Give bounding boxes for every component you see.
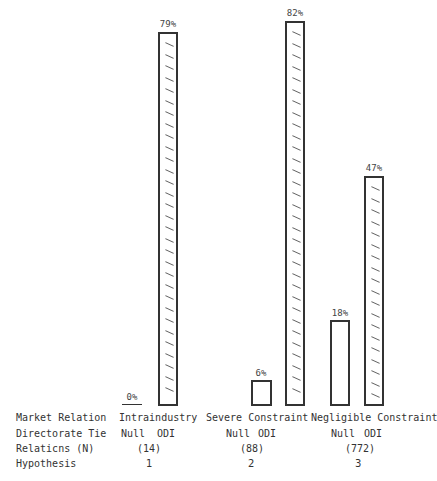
market-relation-intraindustry: Intraindustry (119, 412, 197, 423)
row-label-hypothesis: Hypothesis (16, 458, 76, 469)
bar-null-intraindustry (122, 404, 142, 405)
hatch-mark (292, 169, 301, 174)
hatch-mark (165, 169, 174, 174)
value-label-odi-intraindustry: 79% (148, 19, 188, 29)
hatch-mark (292, 146, 301, 151)
hatch-mark (371, 267, 380, 272)
hatch-mark (165, 42, 174, 47)
hatch-mark (292, 77, 301, 82)
hatch-mark (165, 146, 174, 151)
hatch-mark (292, 250, 301, 255)
bar-odi-intraindustry (158, 32, 178, 406)
hatch-mark (292, 181, 301, 186)
hypothesis-2: 2 (248, 458, 254, 469)
hatch-mark (292, 388, 301, 393)
hatch-mark (165, 249, 174, 254)
relations-n-1: (14) (137, 443, 161, 454)
hatch-mark (292, 215, 301, 220)
directorate-odi-2: ODI (258, 428, 276, 439)
hatch-mark (292, 330, 301, 335)
hatch-mark (292, 135, 301, 140)
hatch-mark (371, 301, 380, 306)
hatch-mark (371, 359, 380, 364)
relations-n-3: (772) (345, 443, 375, 454)
hatch-mark (371, 347, 380, 352)
value-label-null-severe-constraint: 6% (241, 368, 281, 378)
hatch-mark (165, 364, 174, 369)
hatch-mark (292, 204, 301, 209)
hatch-mark (292, 100, 301, 105)
hatch-mark (165, 88, 174, 93)
hatch-mark (292, 112, 301, 117)
bar-null-severe-constraint (251, 380, 272, 406)
hatch-mark (292, 227, 301, 232)
hatch-mark (371, 244, 380, 249)
hatch-mark (371, 186, 380, 191)
hatch-mark (165, 295, 174, 300)
bar-null-negligible-constraint (330, 320, 350, 406)
hatch-mark (165, 134, 174, 139)
hatch-mark (371, 313, 380, 318)
hatch-mark (371, 278, 380, 283)
hatch-mark (371, 198, 380, 203)
market-relation-severe-constraint: Severe Constraint (206, 412, 308, 423)
hatch-mark (165, 54, 174, 59)
hatch-mark (292, 31, 301, 36)
hatch-mark (371, 336, 380, 341)
hatch-mark (371, 393, 380, 398)
hatch-mark (292, 89, 301, 94)
row-label-market-relation: Market Relation (16, 412, 106, 423)
hatch-mark (165, 180, 174, 185)
hatch-mark (165, 353, 174, 358)
hatch-mark (165, 203, 174, 208)
hatch-mark (292, 365, 301, 370)
value-label-odi-severe-constraint: 82% (275, 8, 315, 18)
hatch-mark (165, 77, 174, 82)
hatch-mark (165, 284, 174, 289)
row-label-relations-n: Relaticns (N) (16, 443, 94, 454)
hatch-mark (371, 382, 380, 387)
hatch-mark (165, 341, 174, 346)
value-label-null-intraindustry: 0% (112, 392, 152, 402)
hatch-mark (165, 238, 174, 243)
directorate-odi-1: ODI (157, 428, 175, 439)
hatch-mark (292, 307, 301, 312)
hatch-mark (292, 353, 301, 358)
hatch-mark (292, 123, 301, 128)
hypothesis-1: 1 (146, 458, 152, 469)
hatch-mark (165, 226, 174, 231)
hatch-mark (371, 290, 380, 295)
directorate-odi-3: ODI (364, 428, 382, 439)
hypothesis-3: 3 (355, 458, 361, 469)
hatch-mark (165, 215, 174, 220)
hatch-mark (165, 330, 174, 335)
directorate-null-3: Null (331, 428, 355, 439)
hatch-mark (292, 376, 301, 381)
directorate-null-1: Null (121, 428, 145, 439)
hatch-mark (292, 284, 301, 289)
hatch-mark (165, 123, 174, 128)
hatch-mark (292, 158, 301, 163)
hatch-mark (165, 100, 174, 105)
hatch-mark (292, 238, 301, 243)
hatch-mark (371, 221, 380, 226)
hatch-mark (165, 387, 174, 392)
hatch-mark (165, 376, 174, 381)
hatch-mark (165, 272, 174, 277)
value-label-null-negligible-constraint: 18% (320, 308, 360, 318)
relations-n-2: (88) (240, 443, 264, 454)
hatch-mark (371, 209, 380, 214)
hatch-mark (292, 43, 301, 48)
market-relation-negligible-constraint: Negligible Constraint (311, 412, 437, 423)
hatch-mark (292, 273, 301, 278)
hatch-mark (371, 324, 380, 329)
hatch-mark (165, 318, 174, 323)
hatch-mark (371, 255, 380, 260)
bar-odi-severe-constraint (285, 21, 305, 406)
directorate-null-2: Null (226, 428, 250, 439)
value-label-odi-negligible-constraint: 47% (354, 163, 394, 173)
hatch-mark (371, 370, 380, 375)
hatch-mark (165, 65, 174, 70)
row-label-directorate-tie: Directorate Tie (16, 428, 106, 439)
hatch-mark (292, 261, 301, 266)
